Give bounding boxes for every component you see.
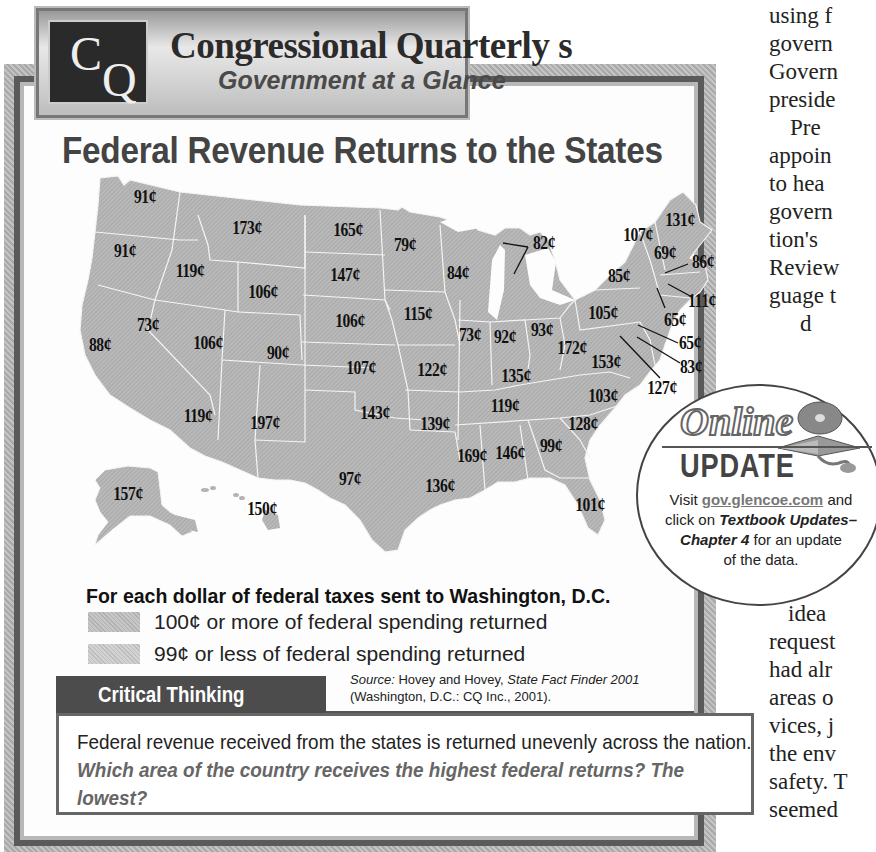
update-word: UPDATE — [680, 446, 795, 485]
state-value-or: 91¢ — [114, 240, 136, 262]
state-value-ne: 106¢ — [335, 310, 365, 332]
body-text-line: the env — [769, 740, 836, 768]
source-authors: Hovey and Hovey, — [395, 672, 507, 687]
body-text-line: govern — [769, 198, 833, 226]
state-value-ri: 111¢ — [688, 290, 716, 312]
state-value-in: 92¢ — [494, 326, 516, 348]
state-value-hi: 150¢ — [247, 498, 277, 520]
state-value-ca: 88¢ — [89, 334, 111, 356]
banner-title: Congressional Quarterly s — [170, 24, 572, 67]
state-value-fl: 101¢ — [575, 494, 605, 516]
logo-letter-c: C — [70, 26, 102, 81]
body-text-line: d — [800, 310, 812, 338]
map-title: Federal Revenue Returns to the States — [62, 130, 663, 172]
body-text-line: guage t — [769, 282, 836, 310]
state-value-al: 146¢ — [495, 442, 525, 464]
body-text-line: had alr — [769, 656, 832, 684]
critical-thinking-header: Critical Thinking — [56, 676, 326, 714]
state-value-ct: 65¢ — [664, 309, 686, 331]
critical-thinking-statement: Federal revenue received from the states… — [77, 730, 751, 753]
glencoe-link[interactable]: gov.glencoe.com — [702, 491, 823, 508]
critical-thinking-box: Federal revenue received from the states… — [56, 713, 754, 815]
state-value-nd: 165¢ — [333, 219, 363, 241]
legend-title: For each dollar of federal taxes sent to… — [86, 584, 611, 608]
state-value-ut: 106¢ — [193, 332, 223, 354]
state-value-ks: 107¢ — [346, 357, 376, 379]
state-value-ia: 115¢ — [404, 303, 433, 325]
state-value-mo: 122¢ — [417, 359, 447, 381]
source-citation: Source: Hovey and Hovey, State Fact Find… — [350, 671, 640, 705]
legend-label-high: 100¢ or more of federal spending returne… — [154, 610, 547, 634]
state-value-ny: 85¢ — [608, 265, 630, 287]
state-value-md: 127¢ — [647, 377, 677, 399]
state-value-az: 119¢ — [184, 405, 213, 427]
state-value-co: 90¢ — [267, 342, 289, 364]
state-value-ar: 139¢ — [420, 413, 450, 435]
source-prefix: Source: — [350, 672, 395, 687]
state-value-ok: 143¢ — [360, 402, 390, 424]
state-value-ms: 169¢ — [457, 445, 487, 467]
state-value-nm: 197¢ — [250, 412, 280, 434]
state-value-tx: 97¢ — [339, 468, 361, 490]
state-value-va: 153¢ — [591, 351, 621, 373]
state-value-pa: 105¢ — [588, 302, 618, 324]
critical-thinking-title: Critical Thinking — [98, 682, 245, 708]
body-text-line: idea — [788, 600, 826, 628]
online-update-badge: Online UPDATE Visit gov.glencoe.com and … — [636, 384, 876, 606]
state-value-tn: 119¢ — [491, 395, 520, 417]
body-text-line: Review — [769, 254, 839, 282]
body-text-line: using f — [769, 2, 832, 30]
logo-letter-q: Q — [102, 52, 137, 107]
body-text-line: to hea — [769, 170, 825, 198]
state-value-il: 73¢ — [459, 324, 481, 346]
critical-thinking-question: Which area of the country receives the h… — [77, 758, 684, 809]
banner-subtitle: Government at a Glance — [218, 66, 506, 95]
chapter-text: Chapter 4 — [680, 531, 749, 548]
critical-thinking-text: Federal revenue received from the states… — [77, 728, 752, 812]
state-value-wy: 106¢ — [248, 281, 278, 303]
online-update-text: Visit gov.glencoe.com and click on Textb… — [638, 490, 876, 570]
body-text-line: preside — [769, 86, 835, 114]
update-last-text: of the data. — [723, 551, 798, 568]
legend-swatch-low — [88, 644, 140, 664]
body-text-line: Govern — [769, 58, 838, 86]
state-value-mi: 82¢ — [533, 232, 555, 254]
body-text-line: safety. T — [769, 768, 848, 796]
state-value-mt: 173¢ — [232, 217, 262, 239]
state-value-sd: 147¢ — [330, 264, 360, 286]
state-value-ga: 99¢ — [540, 435, 562, 457]
state-value-la: 136¢ — [425, 475, 455, 497]
body-text-line: vices, j — [769, 712, 834, 740]
state-value-nv: 73¢ — [137, 314, 159, 336]
state-value-nj: 65¢ — [679, 332, 701, 354]
state-value-oh: 93¢ — [531, 319, 553, 341]
legend-label-low: 99¢ or less of federal spending returned — [154, 642, 525, 666]
state-value-de: 83¢ — [680, 356, 702, 378]
body-text-line: areas o — [769, 684, 834, 712]
state-value-wv: 172¢ — [557, 337, 587, 359]
body-text-line: request — [769, 628, 835, 656]
state-value-wi: 84¢ — [447, 262, 469, 284]
body-text-line: govern — [769, 30, 833, 58]
cq-logo: C Q — [48, 20, 148, 104]
body-text-line: seemed — [769, 796, 838, 824]
body-text-line: appoin — [769, 142, 832, 170]
state-value-wa: 91¢ — [134, 186, 156, 208]
state-value-sc: 128¢ — [568, 413, 598, 435]
state-value-ky: 135¢ — [501, 365, 531, 387]
body-text-line: Pre — [790, 114, 821, 142]
body-text-line: tion's — [769, 226, 818, 254]
state-value-mn: 79¢ — [394, 234, 416, 256]
source-title: State Fact Finder 2001 — [507, 672, 639, 687]
state-value-me: 131¢ — [665, 209, 695, 231]
legend-swatch-high — [88, 612, 140, 632]
state-value-vt: 107¢ — [623, 224, 653, 246]
state-value-nh: 69¢ — [654, 242, 676, 264]
update-rest-text: for an update — [749, 531, 842, 548]
click-text: click on — [665, 511, 719, 528]
state-value-nc: 103¢ — [588, 385, 618, 407]
visit-text: Visit — [670, 491, 702, 508]
and-text: and — [823, 491, 852, 508]
state-value-id: 119¢ — [176, 260, 205, 282]
state-value-ak: 157¢ — [113, 483, 143, 505]
